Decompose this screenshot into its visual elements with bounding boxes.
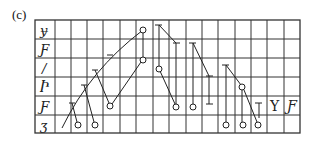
node-circle <box>223 122 229 128</box>
row-glyph-4: Ⴡ <box>39 80 49 95</box>
row-glyph-6: ʒ <box>39 118 48 133</box>
node-circle <box>107 103 113 109</box>
row-glyph-5: Ƒ <box>37 99 50 114</box>
node-circle <box>75 122 81 128</box>
row-glyph-1: ɏ <box>39 23 49 38</box>
node-circle <box>92 122 98 128</box>
node-circle <box>156 66 162 72</box>
node-circle <box>173 104 179 110</box>
glyph-y: Y <box>269 98 280 114</box>
diagram-canvas: ɏ Ƒ / Ⴡ Ƒ ʒ <box>0 0 315 142</box>
node-circle <box>140 57 146 63</box>
grid <box>35 20 300 133</box>
row-glyph-2: Ƒ <box>37 42 50 57</box>
node-circle <box>140 27 146 33</box>
node-circle <box>239 84 245 90</box>
glyph-f: Ƒ <box>284 98 298 114</box>
row-glyph-3: / <box>40 61 48 76</box>
node-circle <box>255 122 261 128</box>
node-circle <box>190 104 196 110</box>
node-circle <box>240 122 246 128</box>
